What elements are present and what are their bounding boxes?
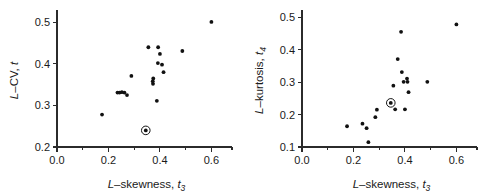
scatter-plot-left: 0.20.30.40.50.00.20.40.6L–skewness, t3L–… xyxy=(0,0,244,196)
y-axis-title-dash: –kurtosis, xyxy=(253,55,265,107)
data-point xyxy=(100,113,104,117)
y-axis-title-var: t xyxy=(8,61,20,65)
data-point xyxy=(155,99,159,103)
y-axis-title: L–CV, t xyxy=(8,61,20,99)
data-point xyxy=(158,52,162,56)
x-axis-title-sub: 3 xyxy=(181,183,186,193)
x-tick-label: 0.6 xyxy=(449,154,464,166)
y-tick-label: 0.3 xyxy=(280,76,295,88)
scatter-plot-right: 0.10.20.30.40.50.00.20.40.6L–skewness, t… xyxy=(245,0,489,196)
data-point xyxy=(151,77,155,81)
x-tick-label: 0.4 xyxy=(152,154,167,166)
data-point xyxy=(400,70,404,74)
x-tick-label: 0.2 xyxy=(101,154,116,166)
y-tick-label: 0.2 xyxy=(280,109,295,121)
data-point xyxy=(367,140,371,144)
y-tick-label: 0.3 xyxy=(35,99,50,111)
x-tick-label: 0.4 xyxy=(397,154,412,166)
y-axis-title: L–kurtosis, t4 xyxy=(253,47,268,114)
highlighted-point xyxy=(144,128,148,132)
y-tick-label: 0.4 xyxy=(35,58,50,70)
data-point xyxy=(129,74,133,78)
y-axis-title-sub: 4 xyxy=(258,47,268,52)
data-point xyxy=(425,80,429,84)
y-tick-label: 0.1 xyxy=(280,141,295,153)
data-point xyxy=(407,90,411,94)
data-point xyxy=(365,126,369,130)
data-point xyxy=(146,45,150,49)
y-axis-title-dash: –CV, xyxy=(8,65,20,93)
data-point xyxy=(403,107,407,111)
data-point xyxy=(455,22,459,26)
data-point xyxy=(373,115,377,119)
y-tick-label: 0.2 xyxy=(35,141,50,153)
data-point xyxy=(393,107,397,111)
x-tick-label: 0.2 xyxy=(346,154,361,166)
x-axis-title: L–skewness, t3 xyxy=(108,178,186,193)
figure-container: 0.20.30.40.50.00.20.40.6L–skewness, t3L–… xyxy=(0,0,489,196)
data-point xyxy=(399,30,403,34)
data-point xyxy=(151,82,155,86)
data-point xyxy=(375,108,379,112)
x-tick-label: 0.6 xyxy=(204,154,219,166)
data-point xyxy=(156,61,160,65)
y-tick-label: 0.5 xyxy=(35,16,50,28)
y-tick-label: 0.4 xyxy=(280,44,295,56)
data-point xyxy=(160,63,164,67)
data-point xyxy=(402,80,406,84)
x-axis-title-dash: –skewness, xyxy=(114,178,177,190)
data-point xyxy=(406,80,410,84)
data-point xyxy=(405,77,409,81)
data-point xyxy=(361,122,365,126)
data-point xyxy=(162,70,166,74)
data-point xyxy=(391,84,395,88)
data-point xyxy=(345,124,349,128)
data-point xyxy=(125,93,129,97)
y-tick-label: 0.5 xyxy=(280,11,295,23)
x-tick-label: 0.0 xyxy=(294,154,309,166)
highlighted-point xyxy=(389,101,393,105)
data-point xyxy=(396,57,400,61)
scatter-panel-left: 0.20.30.40.50.00.20.40.6L–skewness, t3L–… xyxy=(0,0,244,196)
data-point xyxy=(180,49,184,53)
data-point xyxy=(156,45,160,49)
x-axis-title: L–skewness, t3 xyxy=(353,178,431,193)
x-axis-title-dash: –skewness, xyxy=(359,178,422,190)
x-tick-label: 0.0 xyxy=(49,154,64,166)
x-axis-title-sub: 3 xyxy=(426,183,431,193)
scatter-panel-right: 0.10.20.30.40.50.00.20.40.6L–skewness, t… xyxy=(245,0,489,196)
data-point xyxy=(210,20,214,24)
